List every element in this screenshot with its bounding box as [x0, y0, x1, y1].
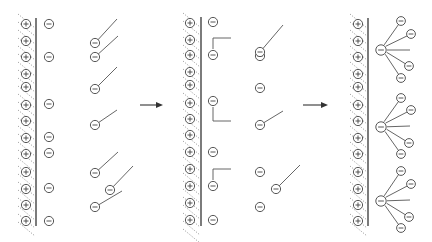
- free-anion-icon: [44, 52, 53, 61]
- aggregate-anion-icon: [397, 94, 406, 103]
- free-anion-icon: [208, 17, 217, 26]
- aggregate-anion-icon: [397, 74, 406, 83]
- free-surfactant: [90, 67, 117, 94]
- surfactant-head-icon: [208, 96, 217, 105]
- positive-charge-icon: [353, 149, 362, 158]
- adsorbed-surfactant: [208, 169, 231, 191]
- aggregate-anion-icon: [407, 106, 416, 115]
- free-surfactant: [90, 19, 117, 48]
- free-surfactant: [90, 191, 122, 212]
- positive-charge-icon: [21, 36, 30, 45]
- free-surfactant: [255, 25, 283, 57]
- positive-charge-icon: [353, 200, 362, 209]
- adsorbed-surfactant: [208, 38, 231, 60]
- panel-1: [18, 14, 133, 236]
- charged-surface: [350, 14, 368, 236]
- aggregate-anion-icon: [397, 150, 406, 159]
- surfactant-head-icon: [255, 120, 264, 129]
- free-anion-icon: [208, 147, 217, 156]
- positive-charge-icon: [185, 50, 194, 59]
- positive-charge-icon: [353, 133, 362, 142]
- surfactant-head-icon: [90, 38, 99, 47]
- positive-charge-icon: [185, 164, 194, 173]
- aggregate-anion-icon: [397, 224, 406, 233]
- aggregate-tail: [387, 126, 410, 127]
- aggregate-tail: [387, 200, 410, 201]
- positive-charge-icon: [21, 19, 30, 28]
- surfactant-tail: [213, 107, 231, 121]
- surfactant-tail: [213, 38, 231, 49]
- bulk-anion-icon: [255, 167, 264, 176]
- surfactant-tail: [276, 165, 300, 189]
- positive-charge-icon: [21, 133, 30, 142]
- aggregate-anion-icon: [397, 167, 406, 176]
- positive-charge-icon: [21, 52, 30, 61]
- surfactant-head-icon: [271, 184, 280, 193]
- positive-charge-icon: [21, 116, 30, 125]
- free-anion-icon: [44, 183, 53, 192]
- surfactant-aggregate: [376, 167, 416, 233]
- adsorbed-surfactant: [208, 96, 231, 121]
- charged-surface: [18, 14, 36, 236]
- free-anion-icon: [44, 132, 53, 141]
- free-anion-icon: [44, 148, 53, 157]
- aggregate-center-anion-icon: [376, 122, 386, 132]
- free-anion-icon: [44, 99, 53, 108]
- positive-charge-icon: [353, 100, 362, 109]
- charged-surface: [183, 13, 201, 242]
- positive-charge-icon: [353, 184, 362, 193]
- positive-charge-icon: [353, 36, 362, 45]
- positive-charge-icon: [185, 67, 194, 76]
- surfactant-head-icon: [90, 120, 99, 129]
- positive-charge-icon: [21, 149, 30, 158]
- positive-charge-icon: [353, 167, 362, 176]
- aggregate-anion-icon: [407, 180, 416, 189]
- positive-charge-icon: [185, 80, 194, 89]
- surfactant-aggregate: [376, 17, 416, 83]
- positive-charge-icon: [185, 215, 194, 224]
- arrow-1-icon: [140, 102, 163, 108]
- surfactant-head-icon: [208, 50, 217, 59]
- positive-charge-icon: [353, 82, 362, 91]
- positive-charge-icon: [185, 130, 194, 139]
- aggregate-anion-icon: [405, 62, 414, 71]
- aggregate-center-anion-icon: [376, 196, 386, 206]
- positive-charge-icon: [185, 35, 194, 44]
- bulk-anion-icon: [255, 202, 264, 211]
- positive-charge-icon: [21, 100, 30, 109]
- aggregate-center-anion-icon: [376, 45, 386, 55]
- positive-charge-icon: [185, 147, 194, 156]
- panel-2: [183, 13, 300, 242]
- adsorption-diagram: [0, 0, 432, 242]
- positive-charge-icon: [353, 216, 362, 225]
- surfactant-head-icon: [105, 185, 114, 194]
- surfactant-aggregate: [376, 94, 416, 159]
- aggregate-anion-icon: [407, 30, 416, 39]
- positive-charge-icon: [185, 198, 194, 207]
- positive-charge-icon: [185, 98, 194, 107]
- aggregate-anion-icon: [405, 139, 414, 148]
- positive-charge-icon: [185, 181, 194, 190]
- positive-charge-icon: [21, 167, 30, 176]
- positive-charge-icon: [353, 19, 362, 28]
- positive-charge-icon: [353, 52, 362, 61]
- panel-3: [350, 14, 415, 236]
- surfactant-head-icon: [208, 181, 217, 190]
- positive-charge-icon: [21, 200, 30, 209]
- positive-charge-icon: [353, 116, 362, 125]
- diagram-canvas: [0, 0, 432, 242]
- free-surfactant: [271, 165, 300, 194]
- arrow-2-icon: [303, 102, 328, 108]
- positive-charge-icon: [21, 216, 30, 225]
- positive-charge-icon: [21, 82, 30, 91]
- bulk-anion-icon: [255, 83, 264, 92]
- free-surfactant: [255, 111, 283, 130]
- surfactant-tail: [260, 25, 283, 52]
- positive-charge-icon: [21, 69, 30, 78]
- free-surfactant: [105, 166, 133, 195]
- free-anion-icon: [208, 215, 217, 224]
- surfactant-head-icon: [90, 84, 99, 93]
- positive-charge-icon: [185, 18, 194, 27]
- aggregate-anion-icon: [397, 17, 406, 26]
- surfactant-head-icon: [90, 202, 99, 211]
